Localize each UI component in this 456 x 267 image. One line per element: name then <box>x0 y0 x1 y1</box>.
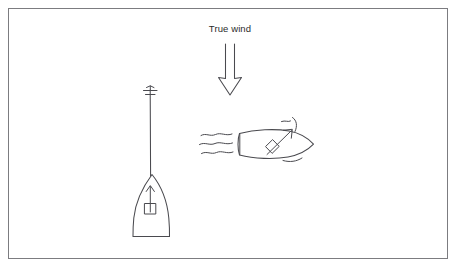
true-wind-label: True wind <box>196 23 264 35</box>
wake-lines <box>200 134 234 154</box>
apparent-wind-arrow <box>266 129 293 154</box>
diagram-canvas <box>0 0 456 267</box>
sail-curves <box>282 118 303 162</box>
true-wind-arrow <box>219 44 242 95</box>
hull-outline-right <box>238 130 314 159</box>
sailing-diagram-figure: True wind <box>0 0 456 267</box>
hull-outline-left <box>133 175 170 237</box>
boat-heading-arrow <box>145 186 156 214</box>
sailboat-on-a-reach <box>200 118 314 162</box>
sailboat-head-to-wind <box>133 86 170 237</box>
